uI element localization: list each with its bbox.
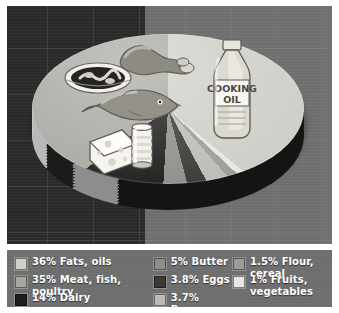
legend-label-dairy: 14% Dairy <box>32 292 90 304</box>
legend-swatch-meat-fish-poultry <box>15 276 27 288</box>
legend-item-eggs[interactable]: 3.8% Eggs <box>154 274 233 290</box>
legend-label-butter: 5% Butter <box>171 256 228 268</box>
chart-panel: COOKING OIL <box>7 6 332 244</box>
chicken-leg-illustration <box>115 42 195 84</box>
legend-column-3: 1.5% Flour, cereal 1% Fruits, vegetables <box>233 256 332 307</box>
legend-label-eggs: 3.8% Eggs <box>171 274 230 286</box>
legend-swatch-butter <box>154 258 166 270</box>
bottle-label-line2: OIL <box>223 94 241 105</box>
legend-label-fats-oils: 36% Fats, oils <box>32 256 112 268</box>
legend-swatch-dairy <box>15 294 27 306</box>
milk-can-illustration <box>128 122 156 170</box>
legend-item-butter[interactable]: 5% Butter <box>154 256 233 272</box>
legend-swatch-flour-cereal <box>233 258 245 270</box>
legend-item-flour-cereal[interactable]: 1.5% Flour, cereal <box>233 256 332 272</box>
legend-swatch-eggs <box>154 276 166 288</box>
legend-label-beans: 3.7% Beans <box>171 292 233 307</box>
legend-column-1: 36% Fats, oils 35% Meat, fish, poultry 1… <box>15 256 154 307</box>
legend-item-beans[interactable]: 3.7% Beans <box>154 292 233 307</box>
legend-swatch-fats-oils <box>15 258 27 270</box>
legend-item-dairy[interactable]: 14% Dairy <box>15 292 154 307</box>
legend-item-meat-fish-poultry[interactable]: 35% Meat, fish, poultry <box>15 274 154 290</box>
legend-label-fruits-vegetables: 1% Fruits, vegetables <box>250 274 313 298</box>
pie-chart-figure: COOKING OIL 36% Fats, oils 35% Meat, fis… <box>0 0 339 313</box>
legend-swatch-beans <box>154 294 166 306</box>
legend-swatch-fruits-vegetables <box>233 276 245 288</box>
cooking-oil-bottle-illustration: COOKING OIL <box>204 38 260 142</box>
fish-illustration <box>80 86 184 124</box>
legend-item-fats-oils[interactable]: 36% Fats, oils <box>15 256 154 272</box>
legend-item-fruits-vegetables[interactable]: 1% Fruits, vegetables <box>233 274 332 302</box>
chart-legend: 36% Fats, oils 35% Meat, fish, poultry 1… <box>7 250 332 307</box>
legend-column-2: 5% Butter 3.8% Eggs 3.7% Beans <box>154 256 233 307</box>
pie-chart: COOKING OIL <box>32 34 307 212</box>
